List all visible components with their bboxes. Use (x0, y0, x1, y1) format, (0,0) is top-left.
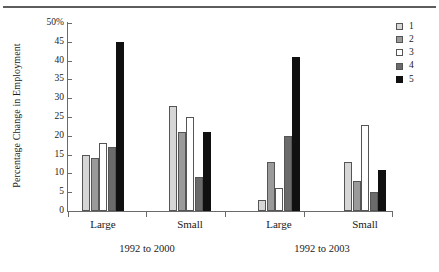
y-axis-tick (68, 192, 72, 193)
chart-figure: Percentage Change in Employment 05101520… (0, 0, 439, 272)
y-axis-tick (68, 42, 72, 43)
legend-swatch-icon (396, 36, 403, 43)
y-axis-tick-label: 10 (24, 168, 64, 178)
y-axis-tick-label: 50% (24, 18, 64, 28)
bar-group (258, 23, 300, 211)
y-axis-tick (68, 79, 72, 80)
y-axis-tick-label: 30 (24, 93, 64, 103)
x-axis-category-label: Small (325, 218, 405, 230)
x-axis-category-label: Large (239, 218, 319, 230)
y-axis-tick (68, 98, 72, 99)
bar-series-1 (82, 155, 90, 211)
y-axis-tick (68, 173, 72, 174)
x-axis-tick (68, 211, 69, 217)
x-axis-tick (146, 211, 147, 217)
bar-series-5 (116, 42, 124, 211)
bar-series-3 (361, 125, 369, 211)
x-axis-category-label: Small (150, 218, 230, 230)
bar-series-2 (267, 162, 275, 211)
legend-swatch-icon (396, 76, 403, 83)
legend-item-label: 5 (409, 75, 414, 85)
bar-series-3 (186, 117, 194, 211)
x-axis-tick (392, 211, 393, 217)
legend-swatch-icon (396, 23, 403, 30)
y-axis-tick-label: 45 (24, 37, 64, 47)
legend-item[interactable]: 4 (396, 60, 436, 73)
bar-series-4 (284, 136, 292, 211)
y-axis-tick-label: 20 (24, 131, 64, 141)
y-axis-tick (68, 155, 72, 156)
y-axis-tick-label: 5 (24, 187, 64, 197)
legend-item[interactable]: 5 (396, 73, 436, 86)
bar-series-1 (344, 162, 352, 211)
x-axis-period-label: 1992 to 2003 (252, 243, 392, 254)
legend-item-label: 1 (409, 22, 414, 32)
bar-series-2 (178, 132, 186, 211)
legend-swatch-icon (396, 49, 403, 56)
bar-series-4 (370, 192, 378, 211)
x-axis-line (67, 211, 392, 212)
bar-group (82, 23, 124, 211)
legend-item-label: 2 (409, 35, 414, 45)
y-axis-tick-label: 25 (24, 112, 64, 122)
legend-swatch-icon (396, 63, 403, 70)
y-axis-tick-labels: 05101520253035404550% (20, 0, 64, 272)
bar-series-4 (195, 177, 203, 211)
bar-series-5 (203, 132, 211, 211)
bar-group (344, 23, 386, 211)
legend-item[interactable]: 1 (396, 20, 436, 33)
bar-series-4 (108, 147, 116, 211)
bar-series-2 (353, 181, 361, 211)
bar-series-1 (258, 200, 266, 211)
x-axis-tick (304, 211, 305, 217)
legend-item[interactable]: 2 (396, 33, 436, 46)
y-axis-tick (68, 117, 72, 118)
y-axis-tick-label: 0 (24, 206, 64, 216)
bar-series-5 (378, 170, 386, 211)
legend-item-label: 4 (409, 61, 414, 71)
y-axis-tick (68, 23, 72, 24)
y-axis-tick (68, 61, 72, 62)
bar-group (169, 23, 211, 211)
bar-series-5 (292, 57, 300, 211)
y-axis-tick-label: 40 (24, 56, 64, 66)
legend-item[interactable]: 3 (396, 46, 436, 59)
y-axis-tick (68, 136, 72, 137)
bar-series-2 (91, 158, 99, 211)
top-rule-divider (3, 6, 436, 8)
y-axis-tick-label: 35 (24, 74, 64, 84)
chart-legend: 12345 (396, 20, 436, 86)
bar-series-1 (169, 106, 177, 211)
x-axis-tick (225, 211, 226, 217)
x-axis-category-label: Large (63, 218, 143, 230)
y-axis-tick-label: 15 (24, 150, 64, 160)
legend-item-label: 3 (409, 48, 414, 58)
bar-series-3 (99, 143, 107, 211)
x-axis-period-label: 1992 to 2000 (77, 243, 217, 254)
bar-series-3 (275, 188, 283, 211)
